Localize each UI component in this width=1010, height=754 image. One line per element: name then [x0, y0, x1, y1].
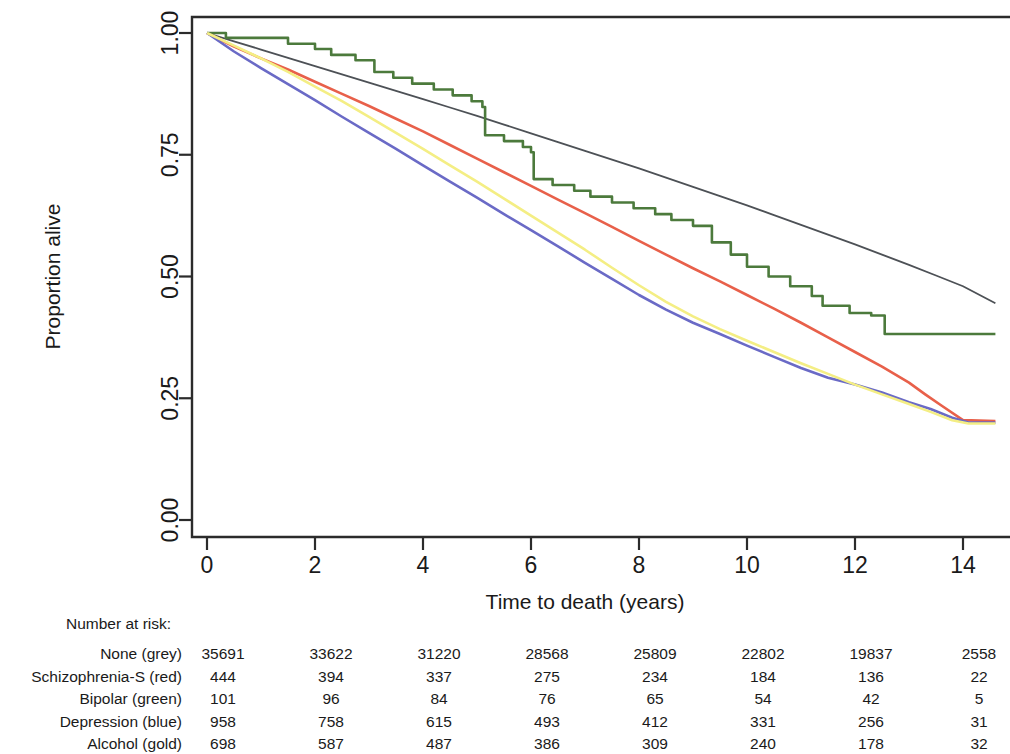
- risk-cell: 412: [642, 713, 668, 730]
- risk-cell: 394: [318, 668, 344, 685]
- risk-cell: 65: [646, 690, 663, 707]
- risk-cell: 487: [426, 735, 452, 752]
- risk-cell: 331: [750, 713, 776, 730]
- risk-cell: 240: [750, 735, 776, 752]
- x-axis-title: Time to death (years): [486, 590, 685, 613]
- y-axis-tick-labels: 0.000.250.500.751.00: [157, 11, 183, 543]
- x-tick-label: 6: [525, 552, 538, 578]
- survival-curves: [207, 33, 995, 424]
- risk-cell: 136: [858, 668, 884, 685]
- risk-cell: 234: [642, 668, 668, 685]
- risk-cell: 337: [426, 668, 452, 685]
- risk-cell: 493: [534, 713, 560, 730]
- x-axis-tick-labels: 02468101214: [201, 552, 976, 578]
- x-tick-label: 4: [417, 552, 430, 578]
- y-tick-label: 1.00: [157, 11, 183, 56]
- risk-cell: 958: [210, 713, 236, 730]
- survival-curve-bipolar-green: [207, 33, 995, 334]
- x-axis-ticks: [207, 537, 963, 550]
- risk-cell: 5: [975, 690, 984, 707]
- risk-cell: 758: [318, 713, 344, 730]
- survival-curve-figure: 0.000.250.500.751.00 02468101214 Proport…: [0, 0, 1010, 754]
- risk-cell: 587: [318, 735, 344, 752]
- risk-table-title: Number at risk:: [66, 615, 171, 632]
- risk-cell: 256: [858, 713, 884, 730]
- risk-table: Number at risk: None (grey)3569133622312…: [31, 615, 996, 752]
- risk-cell: 309: [642, 735, 668, 752]
- y-tick-label: 0.25: [157, 376, 183, 421]
- risk-cell: 76: [538, 690, 555, 707]
- risk-cell: 35691: [201, 645, 244, 662]
- risk-cell: 2558: [962, 645, 996, 662]
- y-axis-title: Proportion alive: [41, 204, 64, 350]
- risk-table-rows: None (grey)35691336223122028568258092280…: [31, 645, 996, 752]
- x-tick-label: 12: [842, 552, 868, 578]
- x-tick-label: 14: [950, 552, 976, 578]
- risk-cell: 96: [322, 690, 339, 707]
- risk-row-label: None (grey): [100, 645, 182, 662]
- y-tick-label: 0.75: [157, 132, 183, 177]
- risk-cell: 22: [970, 668, 987, 685]
- x-tick-label: 8: [633, 552, 646, 578]
- risk-cell: 19837: [849, 645, 892, 662]
- risk-row-label: Bipolar (green): [79, 690, 182, 707]
- survival-curve-none-grey: [207, 33, 995, 303]
- risk-cell: 32: [970, 735, 987, 752]
- risk-row-label: Schizophrenia-S (red): [31, 668, 182, 685]
- risk-cell: 54: [754, 690, 772, 707]
- risk-cell: 31220: [417, 645, 460, 662]
- risk-cell: 28568: [525, 645, 568, 662]
- risk-cell: 25809: [633, 645, 676, 662]
- risk-cell: 42: [862, 690, 879, 707]
- x-tick-label: 10: [734, 552, 760, 578]
- plot-frame: [192, 17, 1010, 537]
- risk-cell: 698: [210, 735, 236, 752]
- risk-cell: 101: [210, 690, 236, 707]
- plot-canvas: 0.000.250.500.751.00 02468101214 Proport…: [0, 0, 1010, 754]
- x-tick-label: 2: [309, 552, 322, 578]
- risk-cell: 615: [426, 713, 452, 730]
- risk-cell: 444: [210, 668, 236, 685]
- risk-cell: 84: [430, 690, 448, 707]
- risk-row-label: Alcohol (gold): [87, 735, 182, 752]
- risk-cell: 33622: [309, 645, 352, 662]
- y-tick-label: 0.00: [157, 498, 183, 543]
- risk-cell: 178: [858, 735, 884, 752]
- y-tick-label: 0.50: [157, 254, 183, 299]
- risk-cell: 184: [750, 668, 776, 685]
- risk-cell: 22802: [741, 645, 784, 662]
- x-tick-label: 0: [201, 552, 214, 578]
- risk-row-label: Depression (blue): [60, 713, 182, 730]
- risk-cell: 386: [534, 735, 560, 752]
- risk-cell: 275: [534, 668, 560, 685]
- risk-cell: 31: [970, 713, 987, 730]
